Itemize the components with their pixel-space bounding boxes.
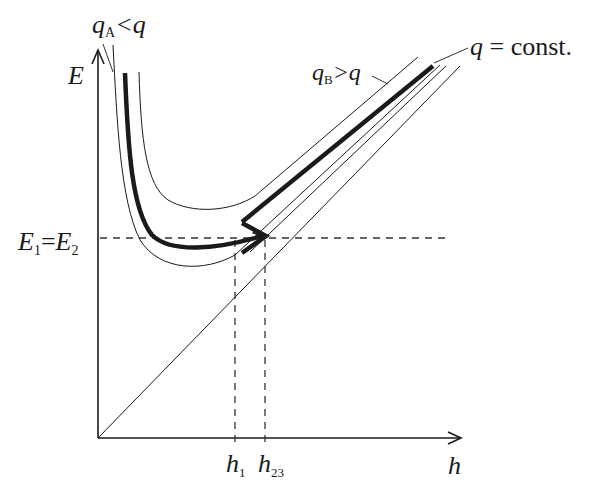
- diagonal-e-equals-h: [98, 66, 460, 438]
- label-qa-less-than-q: qA<q: [92, 10, 146, 40]
- axes: [92, 50, 461, 444]
- x-axis-label: h: [448, 451, 461, 480]
- label-q-constant: q = const.: [470, 32, 572, 61]
- label-qb-greater-than-q: qB>q: [312, 59, 361, 87]
- reference-lines: [100, 238, 446, 448]
- label-h23: h23: [258, 449, 284, 480]
- label-h1: h1: [226, 449, 246, 480]
- curve-q-constant-upper-branch: [242, 66, 433, 222]
- specific-energy-diagram: E h qA<q qB>q q = const. E1=E2 h1 h23: [0, 0, 598, 497]
- curve-q-constant: [125, 73, 262, 248]
- leader-q: [434, 48, 468, 63]
- leader-qa: [103, 44, 113, 72]
- leader-qb: [372, 76, 388, 84]
- label-e1-equals-e2: E1=E2: [17, 227, 78, 258]
- y-axis-label: E: [67, 61, 84, 90]
- curve-qa-right-branch: [250, 66, 446, 252]
- curve-qa-less-than-q: [113, 45, 440, 266]
- curve-qb-greater-than-q: [139, 57, 418, 209]
